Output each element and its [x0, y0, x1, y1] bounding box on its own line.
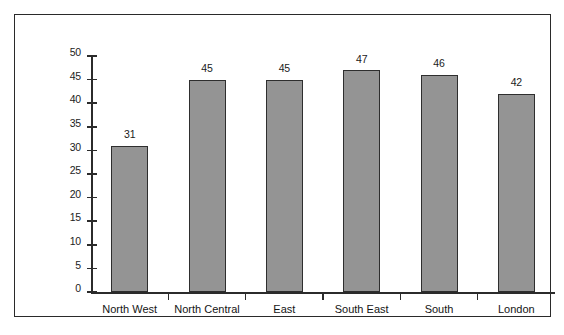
bar-value-label: 46 — [433, 58, 444, 69]
x-axis-category-label: South East — [335, 304, 389, 315]
y-axis-title: Admissions — [44, 0, 60, 15]
bar-value-label: 45 — [201, 63, 212, 74]
bar-group: 45East — [266, 56, 303, 292]
bar — [498, 94, 535, 292]
y-axis-tick-label: 0 — [75, 283, 81, 294]
y-axis-tick: 20 — [87, 197, 97, 199]
y-axis-tick: 0 — [87, 291, 97, 293]
y-axis-tick-label: 5 — [75, 260, 81, 271]
y-axis-tick-label: 30 — [70, 142, 81, 153]
y-axis-tick-label: 50 — [70, 47, 81, 58]
figure-frame-border: Admissions 05101520253035404550 31North … — [14, 14, 551, 317]
y-axis-tick-label: 10 — [70, 236, 81, 247]
x-axis-tick — [477, 292, 479, 300]
plot-area: 05101520253035404550 31North West45North… — [91, 56, 555, 292]
bar-value-label: 31 — [124, 129, 135, 140]
y-axis-tick: 5 — [87, 268, 97, 270]
bar-group: 42London — [498, 56, 535, 292]
y-axis-tick: 30 — [87, 150, 97, 152]
y-axis-tick: 35 — [87, 126, 97, 128]
x-axis-tick — [245, 292, 247, 300]
x-axis-category-label: North Central — [174, 304, 239, 315]
y-axis-tick-label: 15 — [70, 212, 81, 223]
bar-group: 31North West — [111, 56, 148, 292]
x-axis-tick — [168, 292, 170, 300]
x-axis-category-label: East — [273, 304, 295, 315]
x-axis-tick — [400, 292, 402, 300]
x-axis-category-label: South — [425, 304, 454, 315]
y-axis-tick: 45 — [87, 79, 97, 81]
bar-value-label: 45 — [279, 63, 290, 74]
y-axis-tick: 50 — [87, 55, 97, 57]
bar — [189, 80, 226, 292]
x-axis-category-label: London — [498, 304, 535, 315]
y-axis-tick: 40 — [87, 102, 97, 104]
bar — [421, 75, 458, 292]
bar — [111, 146, 148, 292]
y-axis-tick-label: 40 — [70, 94, 81, 105]
x-axis-tick — [322, 292, 324, 300]
y-axis-tick-label: 45 — [70, 71, 81, 82]
bar-group: 47South East — [343, 56, 380, 292]
y-axis-tick-label: 35 — [70, 118, 81, 129]
y-axis-tick: 15 — [87, 220, 97, 222]
bar — [343, 70, 380, 292]
chart-figure: Admissions 05101520253035404550 31North … — [0, 0, 564, 335]
bar-value-label: 47 — [356, 54, 367, 65]
bar-group: 45North Central — [189, 56, 226, 292]
x-axis-category-label: North West — [102, 304, 157, 315]
y-axis-tick-label: 20 — [70, 189, 81, 200]
y-axis-tick: 10 — [87, 244, 97, 246]
bar-group: 46South — [421, 56, 458, 292]
y-axis-tick-label: 25 — [70, 165, 81, 176]
bar — [266, 80, 303, 292]
y-axis-tick: 25 — [87, 173, 97, 175]
bar-value-label: 42 — [511, 77, 522, 88]
